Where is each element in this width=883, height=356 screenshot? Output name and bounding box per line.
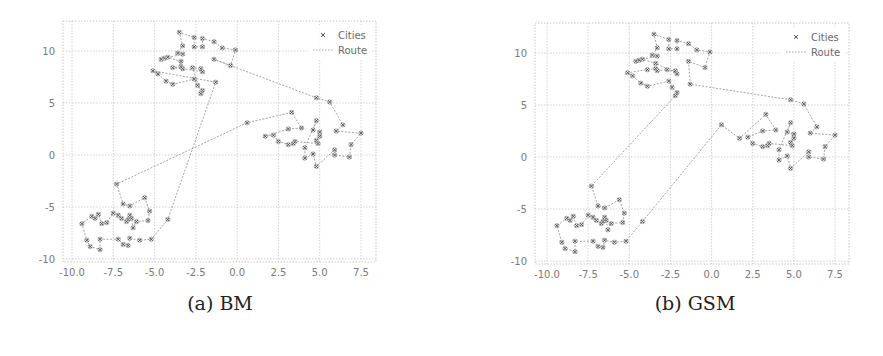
city-marker bbox=[177, 30, 181, 34]
scatter-plot-gsm: -10.0-7.5-5.0-2.50.02.55.07.5-10-50510Ci… bbox=[440, 0, 883, 290]
x-tick-label: -2.5 bbox=[661, 269, 681, 280]
city-marker bbox=[625, 71, 629, 75]
city-marker bbox=[327, 100, 331, 104]
legend: CitiesRoute bbox=[781, 27, 845, 61]
city-marker bbox=[98, 237, 102, 241]
city-marker bbox=[667, 37, 671, 41]
city-marker bbox=[806, 155, 810, 159]
y-tick-label: 10 bbox=[42, 46, 55, 57]
city-marker bbox=[667, 47, 671, 51]
city-marker bbox=[146, 218, 150, 222]
city-marker bbox=[622, 211, 626, 215]
y-tick-label: -10 bbox=[511, 256, 527, 267]
city-marker bbox=[156, 72, 160, 76]
city-marker bbox=[686, 41, 690, 45]
y-tick-label: 10 bbox=[514, 48, 527, 59]
city-marker bbox=[171, 82, 175, 86]
city-marker bbox=[599, 221, 603, 225]
city-marker bbox=[806, 150, 810, 154]
city-marker bbox=[645, 67, 649, 71]
city-marker bbox=[655, 68, 659, 72]
city-marker bbox=[596, 244, 600, 248]
city-marker bbox=[271, 133, 275, 137]
city-marker bbox=[640, 219, 644, 223]
city-marker bbox=[760, 129, 764, 133]
x-tick-label: 5.0 bbox=[312, 267, 328, 278]
city-marker bbox=[142, 195, 146, 199]
city-marker bbox=[673, 93, 677, 97]
city-marker bbox=[792, 136, 796, 140]
city-marker bbox=[286, 142, 290, 146]
city-marker bbox=[667, 79, 671, 83]
city-marker bbox=[665, 67, 669, 71]
city-marker bbox=[686, 59, 690, 63]
city-marker bbox=[777, 158, 781, 162]
city-marker bbox=[573, 239, 577, 243]
x-tick-label: -7.5 bbox=[578, 269, 598, 280]
city-marker bbox=[314, 164, 318, 168]
city-marker bbox=[565, 216, 569, 220]
city-marker bbox=[802, 102, 806, 106]
city-marker bbox=[80, 221, 84, 225]
city-marker bbox=[645, 84, 649, 88]
city-marker bbox=[190, 65, 194, 69]
city-marker bbox=[151, 69, 155, 73]
city-marker bbox=[138, 238, 142, 242]
city-marker bbox=[630, 74, 634, 78]
city-marker bbox=[116, 237, 120, 241]
city-marker bbox=[314, 96, 318, 100]
city-marker bbox=[316, 141, 320, 145]
city-marker bbox=[311, 128, 315, 132]
city-marker bbox=[121, 202, 125, 206]
city-marker bbox=[751, 141, 755, 145]
city-marker bbox=[606, 228, 610, 232]
city-marker bbox=[303, 146, 307, 150]
x-tick-label: -10.0 bbox=[534, 269, 560, 280]
city-marker bbox=[291, 141, 295, 145]
city-marker bbox=[617, 197, 621, 201]
city-marker bbox=[764, 112, 768, 116]
city-marker bbox=[650, 53, 654, 57]
x-tick-label: 5.0 bbox=[786, 269, 802, 280]
city-marker bbox=[808, 131, 812, 135]
city-marker bbox=[180, 52, 184, 56]
city-marker bbox=[703, 65, 707, 69]
city-marker bbox=[100, 221, 104, 225]
caption-bm: (a) BM bbox=[150, 292, 290, 314]
city-marker bbox=[821, 157, 825, 161]
city-marker bbox=[579, 222, 583, 226]
city-marker bbox=[111, 211, 115, 215]
city-marker bbox=[90, 214, 94, 218]
city-marker bbox=[652, 32, 656, 36]
legend: CitiesRoute bbox=[308, 25, 372, 59]
city-marker bbox=[85, 238, 89, 242]
city-marker bbox=[586, 213, 590, 217]
legend-label-route: Route bbox=[338, 45, 367, 56]
x-tick-label: 2.5 bbox=[270, 267, 286, 278]
city-marker bbox=[303, 156, 307, 160]
plot-panel-gsm: -10.0-7.5-5.0-2.50.02.55.07.5-10-50510Ci… bbox=[440, 0, 883, 290]
city-marker bbox=[609, 221, 613, 225]
city-marker bbox=[602, 238, 606, 242]
city-marker bbox=[332, 153, 336, 157]
city-marker bbox=[670, 85, 674, 89]
city-marker bbox=[746, 135, 750, 139]
city-marker bbox=[114, 182, 118, 186]
city-marker bbox=[199, 91, 203, 95]
city-marker bbox=[175, 51, 179, 55]
city-marker bbox=[349, 142, 353, 146]
x-tick-label: -2.5 bbox=[186, 267, 206, 278]
city-marker bbox=[602, 215, 606, 219]
city-marker bbox=[263, 134, 267, 138]
scatter-plot-bm: -10.0-7.5-5.0-2.50.02.55.07.5-10-50510Ci… bbox=[0, 0, 440, 290]
city-marker bbox=[788, 166, 792, 170]
city-marker bbox=[245, 121, 249, 125]
city-marker bbox=[200, 36, 204, 40]
city-marker bbox=[104, 220, 108, 224]
city-marker bbox=[602, 206, 606, 210]
city-marker bbox=[624, 239, 628, 243]
city-marker bbox=[286, 127, 290, 131]
city-marker bbox=[276, 139, 280, 143]
city-marker bbox=[563, 246, 567, 250]
city-marker bbox=[96, 212, 100, 216]
